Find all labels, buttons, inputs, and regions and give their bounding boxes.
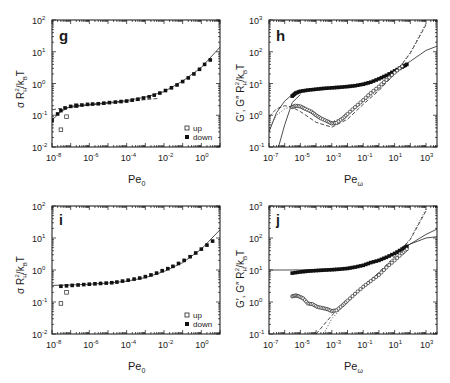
data-point	[59, 284, 63, 288]
data-point	[385, 266, 388, 269]
legend-open-square-icon	[185, 126, 189, 130]
legend-label-up: up	[193, 124, 202, 133]
y-tick-label: 10-2	[32, 329, 48, 340]
data-point	[63, 106, 67, 110]
data-point	[110, 281, 114, 285]
data-point	[177, 262, 181, 266]
data-point	[102, 101, 106, 105]
legend-filled-square-icon	[185, 322, 189, 326]
data-point	[121, 279, 125, 283]
x-tick-label: 10-2	[158, 152, 174, 163]
x-tick-label: 10-8	[46, 152, 62, 163]
panel-label-j: j	[275, 212, 280, 228]
y-tick-label: 101	[249, 265, 263, 276]
data-point	[385, 78, 388, 81]
data-point	[76, 283, 80, 287]
legend-label-down: down	[193, 320, 212, 329]
data-point	[160, 269, 164, 273]
data-point	[65, 284, 69, 288]
x-tick-label: 10-4	[121, 339, 137, 350]
y-tick-label: 102	[32, 15, 46, 26]
data-point	[82, 283, 86, 287]
y-axis-title-j: G′, G″ RH2/kBT	[234, 250, 248, 308]
data-point	[152, 93, 156, 97]
data-point	[192, 72, 196, 76]
data-point	[132, 277, 136, 281]
x-tick-label: 10-7	[263, 339, 279, 350]
data-point	[401, 65, 404, 68]
x-tick-label: 10-7	[263, 152, 279, 163]
data-point	[170, 86, 174, 90]
panel-label-g: g	[59, 27, 68, 44]
y-tick-label: 10-2	[32, 142, 48, 153]
fit-curve	[52, 230, 220, 286]
fit-curve	[269, 46, 437, 132]
y-tick-label: 10-1	[249, 329, 265, 340]
x-axis-title-g: Pe0	[128, 173, 145, 187]
x-tick-label: 10-5	[294, 152, 310, 163]
x-tick-label: 10-8	[46, 339, 62, 350]
x-tick-label: 100	[195, 339, 209, 350]
data-point	[144, 275, 148, 279]
x-tick-label: 10-3	[326, 152, 342, 163]
y-tick-label: 100	[249, 297, 263, 308]
x-tick-label: 10-6	[83, 152, 99, 163]
legend-g: up down	[185, 124, 212, 142]
data-point	[388, 76, 391, 79]
data-point	[126, 278, 130, 282]
legend-label-up: up	[193, 311, 202, 320]
data-point	[356, 290, 359, 293]
data-point	[200, 247, 204, 251]
panel-label-h: h	[276, 27, 285, 44]
x-tick-label: 10-1	[357, 339, 373, 350]
y-tick-label: 102	[32, 201, 46, 212]
y-tick-label: 100	[32, 265, 46, 276]
data-point	[88, 282, 92, 286]
x-tick-label: 10-4	[121, 152, 137, 163]
data-point	[56, 112, 60, 116]
data-point	[136, 97, 140, 101]
data-point	[205, 243, 209, 247]
x-tick-label: 101	[389, 339, 403, 350]
data-point	[91, 102, 95, 106]
data-point	[74, 104, 78, 108]
panel-label-i: i	[59, 212, 63, 228]
data-point	[147, 95, 151, 99]
data-point	[158, 91, 162, 95]
x-tick-label: 10-5	[294, 339, 310, 350]
data-point	[104, 281, 108, 285]
legend-filled-square-icon	[185, 135, 189, 139]
data-point	[390, 73, 393, 76]
fit-curve	[279, 95, 301, 148]
x-tick-label: 10-2	[158, 339, 174, 350]
fit-curve	[316, 211, 426, 334]
fit-curve	[324, 209, 426, 334]
data-point	[353, 292, 356, 295]
y-tick-label: 101	[32, 47, 46, 58]
data-point	[203, 63, 207, 67]
data-point	[155, 271, 159, 275]
y-axis-title-h: G′, G″ RH2/kBT	[234, 64, 248, 122]
fit-curve	[269, 25, 426, 127]
data-point	[59, 128, 63, 132]
data-point	[65, 291, 69, 295]
x-tick-label: 10-1	[357, 152, 373, 163]
y-tick-label: 10-1	[32, 297, 48, 308]
y-tick-label: 103	[249, 15, 263, 26]
data-point	[388, 263, 391, 266]
data-point	[96, 102, 100, 106]
data-point	[125, 99, 129, 103]
fit-curve	[52, 47, 220, 120]
data-point	[186, 76, 190, 80]
data-point	[211, 239, 215, 243]
y-tick-label: 102	[249, 233, 263, 244]
legend-open-square-icon	[185, 313, 189, 317]
data-point	[175, 83, 179, 87]
data-point	[86, 103, 90, 107]
plot-frame	[269, 20, 437, 147]
data-point	[93, 282, 97, 286]
x-tick-label: 103	[420, 152, 434, 163]
data-point	[119, 100, 123, 104]
x-axis-title-j: Peω	[344, 360, 363, 374]
data-point	[99, 282, 103, 286]
